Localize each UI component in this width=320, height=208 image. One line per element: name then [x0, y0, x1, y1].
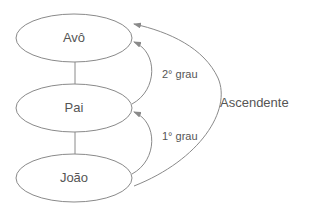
node-label-avo: Avô — [34, 31, 114, 44]
arc-1-grau — [132, 112, 152, 174]
node-label-pai: Pai — [34, 101, 114, 114]
edge-label-ascendente: Ascendente — [220, 96, 289, 109]
edge-label-1-grau: 1° grau — [162, 131, 198, 142]
node-label-joao: João — [34, 171, 114, 184]
arc-ascendente — [134, 24, 221, 186]
arc-2-grau — [132, 42, 152, 104]
edge-label-2-grau: 2° grau — [162, 69, 198, 80]
